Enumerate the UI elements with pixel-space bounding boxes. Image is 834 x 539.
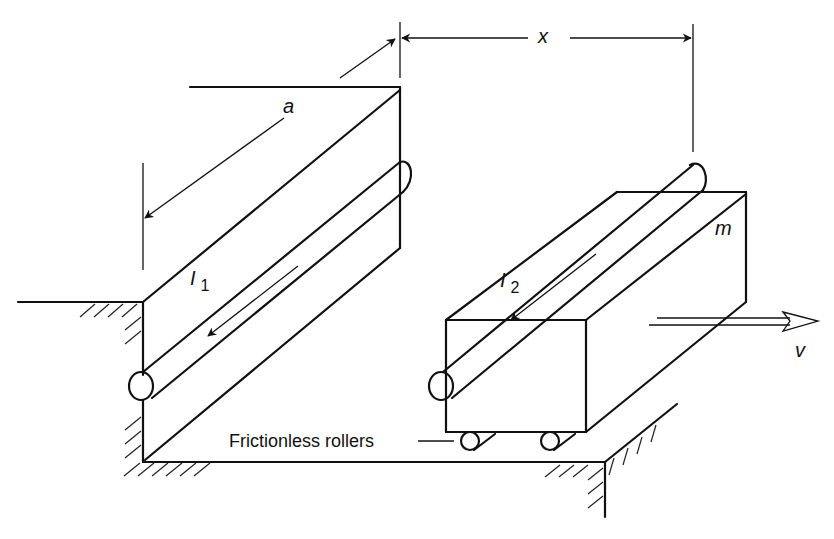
physics-diagram bbox=[0, 0, 834, 539]
label-i1-main: I bbox=[190, 267, 196, 289]
ground-hatching-left bbox=[80, 304, 210, 476]
ground-right bbox=[545, 404, 677, 517]
label-i1-sub: 1 bbox=[201, 277, 210, 294]
velocity-arrow bbox=[649, 312, 818, 331]
label-i1: I1 bbox=[190, 268, 209, 288]
label-m: m bbox=[715, 218, 732, 238]
dimension-a bbox=[143, 22, 400, 270]
label-frictionless-rollers: Frictionless rollers bbox=[229, 432, 374, 450]
current-arrow-i2 bbox=[511, 254, 596, 320]
label-i2: I2 bbox=[500, 270, 519, 290]
label-i2-sub: 2 bbox=[511, 279, 520, 296]
label-x: x bbox=[538, 26, 548, 46]
label-i2-main: I bbox=[500, 269, 506, 291]
frictionless-rollers bbox=[418, 432, 575, 450]
label-v: v bbox=[795, 340, 805, 360]
moving-rod bbox=[429, 164, 706, 400]
moving-block bbox=[446, 192, 746, 432]
current-arrow-i1 bbox=[208, 266, 298, 336]
label-a: a bbox=[283, 96, 294, 116]
